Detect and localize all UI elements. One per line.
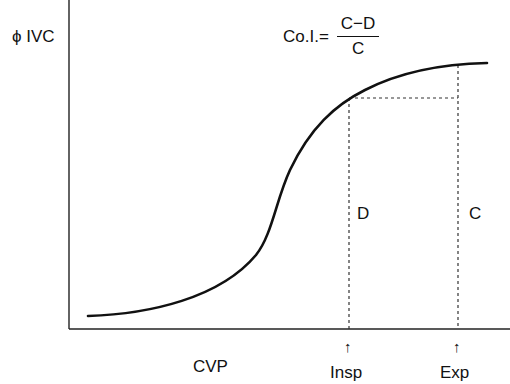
d-label: D	[357, 205, 369, 222]
exp-arrow-icon: ↑	[453, 339, 461, 354]
formula-fraction: C−D C	[337, 14, 379, 59]
collapsibility-formula: Co.I.= C−D C	[283, 14, 379, 59]
insp-arrow-icon: ↑	[344, 339, 352, 354]
exp-label: Exp	[440, 364, 469, 381]
x-axis-label: CVP	[193, 358, 228, 375]
y-axis-label: ϕ IVC	[12, 28, 55, 45]
formula-denominator: C	[352, 37, 364, 59]
diagram-canvas	[0, 0, 510, 384]
formula-lhs: Co.I.=	[283, 27, 329, 47]
c-label: C	[469, 205, 481, 222]
formula-numerator: C−D	[337, 14, 379, 37]
ivc-curve	[88, 63, 487, 316]
insp-label: Insp	[330, 364, 362, 381]
